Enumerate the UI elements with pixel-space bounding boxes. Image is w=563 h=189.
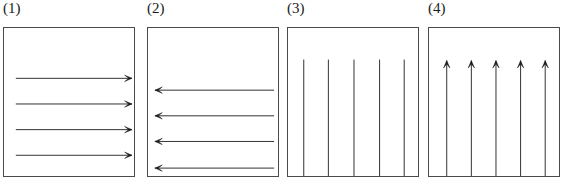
panel-4-box xyxy=(428,27,560,177)
arrow-icon xyxy=(16,126,132,132)
arrow-icon xyxy=(155,165,274,171)
arrow-icon xyxy=(155,87,274,93)
arrow-icon xyxy=(351,60,357,176)
arrow-icon xyxy=(155,138,274,144)
panel-1-arrow-field xyxy=(4,28,134,176)
figure-container: (1) (2) (3) (4) xyxy=(0,0,563,189)
arrow-icon xyxy=(468,61,474,176)
panel-2-box xyxy=(147,27,279,177)
arrow-icon xyxy=(16,75,132,81)
panel-3-arrow-field xyxy=(288,28,418,176)
panel-1-box xyxy=(3,27,135,177)
panel-3-label: (3) xyxy=(287,1,305,16)
arrow-icon xyxy=(376,60,382,176)
arrow-icon xyxy=(16,152,132,158)
panel-2-label: (2) xyxy=(147,1,165,16)
panel-4-label: (4) xyxy=(428,1,446,16)
arrow-icon xyxy=(155,113,274,119)
arrow-icon xyxy=(493,61,499,176)
arrow-icon xyxy=(542,61,548,176)
arrow-icon xyxy=(16,101,132,107)
arrow-icon xyxy=(517,61,523,176)
panel-1-label: (1) xyxy=(3,1,21,16)
panel-4-arrow-field xyxy=(429,28,559,176)
arrow-icon xyxy=(444,61,450,176)
arrow-icon xyxy=(301,60,307,176)
panel-3-box xyxy=(287,27,419,177)
arrow-icon xyxy=(325,60,331,176)
panel-2-arrow-field xyxy=(148,28,278,176)
arrow-icon xyxy=(401,60,407,176)
